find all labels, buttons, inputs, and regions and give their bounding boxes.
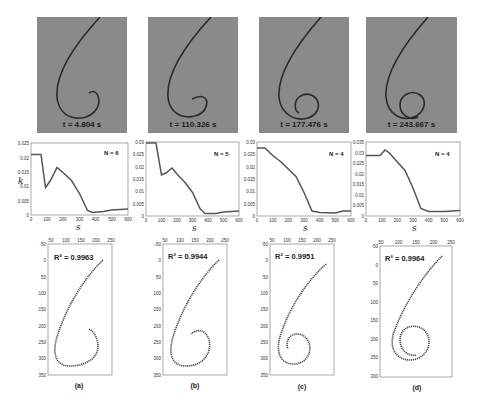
svg-text:0.03: 0.03: [355, 151, 364, 156]
svg-text:300: 300: [153, 356, 161, 361]
svg-text:0.02: 0.02: [246, 165, 255, 170]
svg-text:50: 50: [48, 238, 54, 243]
svg-text:500: 500: [441, 218, 449, 223]
svg-text:400: 400: [316, 218, 324, 223]
svg-text:250: 250: [328, 238, 336, 243]
svg-text:100: 100: [260, 291, 268, 296]
x-axis-label: s: [76, 222, 81, 232]
photo-panel-a: t = 4.804 s: [37, 17, 127, 133]
svg-text:350: 350: [153, 373, 161, 378]
svg-text:400: 400: [204, 218, 212, 223]
svg-text:100: 100: [395, 240, 403, 245]
svg-text:50: 50: [378, 240, 384, 245]
svg-text:100: 100: [283, 238, 291, 243]
svg-text:0.03: 0.03: [135, 140, 144, 145]
curvature-plot-b: 0.030.0250.02 0.0150.010.0050 0100200300…: [120, 135, 240, 234]
r-squared-label: R² = 0.9944: [168, 252, 208, 261]
svg-text:50: 50: [162, 238, 168, 243]
shape-fit-plot-d: 50100150200250 -50050100 150200250300 R²…: [350, 232, 477, 386]
svg-text:250: 250: [38, 340, 46, 345]
time-label: t = 4.804 s: [37, 120, 127, 129]
svg-text:50: 50: [373, 281, 379, 286]
svg-text:350: 350: [260, 373, 268, 378]
svg-text:500: 500: [108, 217, 116, 222]
svg-text:200: 200: [260, 324, 268, 329]
svg-text:300: 300: [370, 374, 378, 379]
svg-text:100: 100: [62, 238, 70, 243]
shape-fit-plot-a: 50100150200250 -50050100 150200250300350…: [0, 232, 125, 386]
svg-text:250: 250: [221, 238, 229, 243]
panel-caption-a: (a): [64, 382, 94, 389]
rod-shape-image: [37, 17, 127, 133]
shape-fit-plot-b: 50100150200250 -50050100 150200250300350…: [118, 232, 238, 386]
svg-text:0: 0: [375, 263, 378, 268]
photo-panel-b: t = 110.326 s: [148, 17, 238, 133]
time-label: t = 177.476 s: [259, 120, 349, 129]
panel-caption-c: (c): [287, 383, 317, 390]
svg-text:150: 150: [298, 238, 306, 243]
svg-text:200: 200: [38, 324, 46, 329]
svg-text:0.01: 0.01: [135, 189, 144, 194]
svg-text:0: 0: [30, 217, 33, 222]
svg-text:50: 50: [263, 275, 269, 280]
svg-text:150: 150: [38, 307, 46, 312]
svg-text:-50: -50: [371, 244, 378, 249]
svg-text:250: 250: [107, 238, 115, 243]
svg-text:0.005: 0.005: [18, 199, 30, 204]
svg-text:100: 100: [269, 218, 277, 223]
r-squared-label: R² = 0.9963: [54, 253, 93, 262]
svg-text:0.02: 0.02: [135, 165, 144, 170]
svg-text:0.015: 0.015: [18, 170, 30, 175]
svg-text:0.015: 0.015: [353, 182, 365, 187]
svg-text:0.015: 0.015: [244, 177, 256, 182]
curvature-plot-d: 0.0350.030.025 0.020.0150.01 0.0050 0100…: [350, 135, 477, 234]
svg-text:100: 100: [176, 238, 184, 243]
svg-text:0.005: 0.005: [244, 202, 256, 207]
svg-text:0: 0: [43, 258, 46, 263]
svg-text:0.025: 0.025: [133, 152, 145, 157]
svg-text:300: 300: [38, 356, 46, 361]
svg-text:0.025: 0.025: [18, 141, 30, 146]
svg-text:150: 150: [153, 307, 161, 312]
svg-text:0.015: 0.015: [133, 177, 145, 182]
svg-text:0.005: 0.005: [133, 202, 145, 207]
svg-text:250: 250: [370, 355, 378, 360]
svg-text:0.035: 0.035: [353, 140, 365, 145]
shape-fit-plot-c: 50100150200250 -50050100 150200250300350…: [235, 232, 355, 386]
svg-text:0: 0: [265, 258, 268, 263]
svg-text:150: 150: [77, 238, 85, 243]
svg-text:100: 100: [38, 291, 46, 296]
svg-text:50: 50: [41, 275, 47, 280]
curvature-plot-a: 0.0250.020.015 0.010.0050 0100200300 400…: [0, 135, 130, 234]
svg-text:50: 50: [156, 275, 162, 280]
svg-text:0.01: 0.01: [355, 193, 364, 198]
svg-text:0: 0: [145, 218, 148, 223]
n-label: N = 4: [435, 151, 450, 157]
svg-text:200: 200: [313, 238, 321, 243]
photo-panel-d: t = 243.667 s: [366, 17, 457, 133]
rod-shape-image: [366, 17, 457, 133]
svg-text:150: 150: [412, 240, 420, 245]
svg-text:150: 150: [370, 318, 378, 323]
svg-text:0: 0: [256, 218, 259, 223]
panel-caption-d: (d): [402, 384, 432, 391]
rod-shape-image: [259, 17, 349, 133]
svg-text:350: 350: [38, 373, 46, 378]
photo-panel-c: t = 177.476 s: [259, 17, 349, 133]
svg-text:0.02: 0.02: [20, 156, 29, 161]
svg-text:0: 0: [158, 258, 161, 263]
svg-text:400: 400: [425, 218, 433, 223]
svg-text:400: 400: [92, 217, 100, 222]
svg-text:100: 100: [378, 218, 386, 223]
svg-text:200: 200: [370, 337, 378, 342]
svg-text:200: 200: [394, 218, 402, 223]
svg-text:200: 200: [206, 238, 214, 243]
svg-text:100: 100: [158, 218, 166, 223]
n-label: N = 4: [329, 151, 344, 157]
svg-text:200: 200: [173, 218, 181, 223]
svg-text:250: 250: [447, 240, 455, 245]
svg-text:0.005: 0.005: [353, 203, 365, 208]
svg-text:-50: -50: [154, 242, 161, 247]
svg-text:200: 200: [430, 240, 438, 245]
svg-text:200: 200: [153, 324, 161, 329]
